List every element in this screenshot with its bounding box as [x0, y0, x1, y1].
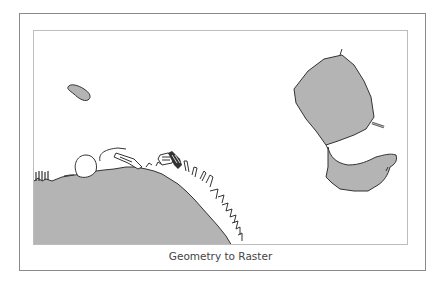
- map-axes: [33, 30, 408, 245]
- map-canvas: [34, 31, 408, 245]
- small-island: [68, 85, 90, 101]
- large-island-south: [326, 145, 397, 191]
- large-island-north: [294, 49, 384, 145]
- mainland-coast: [34, 148, 242, 245]
- figure-caption: Geometry to Raster: [33, 250, 408, 262]
